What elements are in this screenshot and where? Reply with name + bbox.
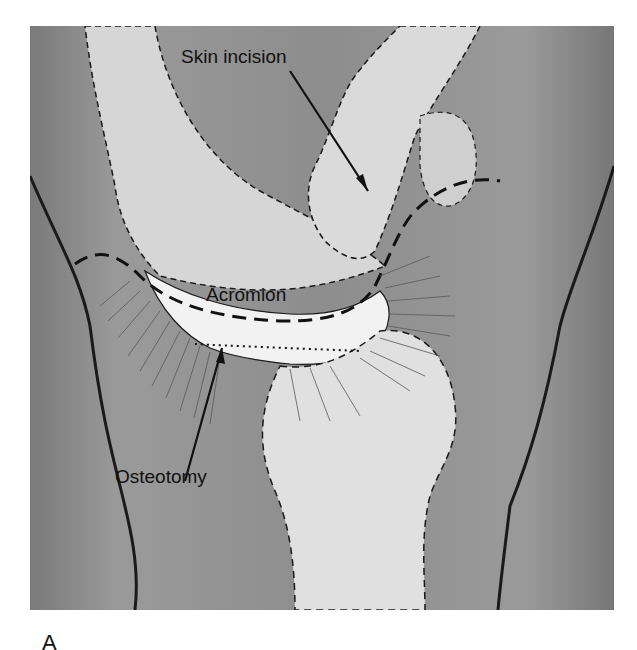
osteotomy-label: Osteotomy (115, 466, 207, 488)
panel-letter: A (42, 630, 57, 650)
anatomy-drawing (30, 26, 614, 610)
acromion-label: Acromion (206, 284, 286, 306)
shoulder-illustration: Skin incision Acromion Osteotomy (30, 26, 614, 610)
skin-incision-label: Skin incision (181, 46, 287, 68)
